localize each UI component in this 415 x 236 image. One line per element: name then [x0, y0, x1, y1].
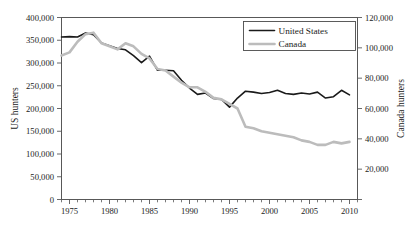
chart-legend: United StatesCanada: [244, 22, 356, 51]
x-axis-tick-label: 1985: [141, 206, 158, 216]
y-axis-tick-label: 400,000: [26, 13, 54, 23]
x-axis-tick-label: 1975: [61, 206, 78, 216]
hunters-line-chart: 19751980198519901995200020052010050,0001…: [0, 0, 415, 236]
y2-axis-tick-label: 80,000: [365, 73, 389, 83]
y-axis-tick-label: 350,000: [26, 35, 54, 45]
chart-figure: 19751980198519901995200020052010050,0001…: [0, 0, 415, 236]
y2-axis-tick-label: 120,000: [365, 13, 393, 23]
y2-axis-tick-label: 20,000: [365, 164, 389, 174]
y-axis-tick-label: 250,000: [26, 81, 54, 91]
y-axis-tick-label: 300,000: [26, 58, 54, 68]
y2-axis-title: Canada hunters: [396, 79, 406, 138]
legend-label-canada: Canada: [279, 39, 307, 49]
x-axis-tick-label: 1995: [221, 206, 238, 216]
y2-axis-tick-label: 60,000: [365, 104, 389, 114]
y2-axis-tick-label: 100,000: [365, 43, 393, 53]
x-axis-tick-label: 2010: [341, 206, 358, 216]
x-axis-tick-label: 1980: [101, 206, 118, 216]
y-axis-tick-label: 200,000: [26, 104, 54, 114]
legend-label-united-states: United States: [279, 26, 329, 36]
x-axis-tick-label: 2005: [301, 206, 318, 216]
y-axis-tick-label: 150,000: [26, 126, 54, 136]
y-axis-tick-label: 0: [50, 195, 54, 205]
x-axis-tick-label: 2000: [261, 206, 278, 216]
x-axis-tick-label: 1990: [181, 206, 198, 216]
y-axis-title: US hunters: [10, 87, 20, 130]
y-axis-tick-label: 50,000: [30, 172, 54, 182]
y2-axis-tick-label: 40,000: [365, 134, 389, 144]
y-axis-tick-label: 100,000: [26, 149, 54, 159]
